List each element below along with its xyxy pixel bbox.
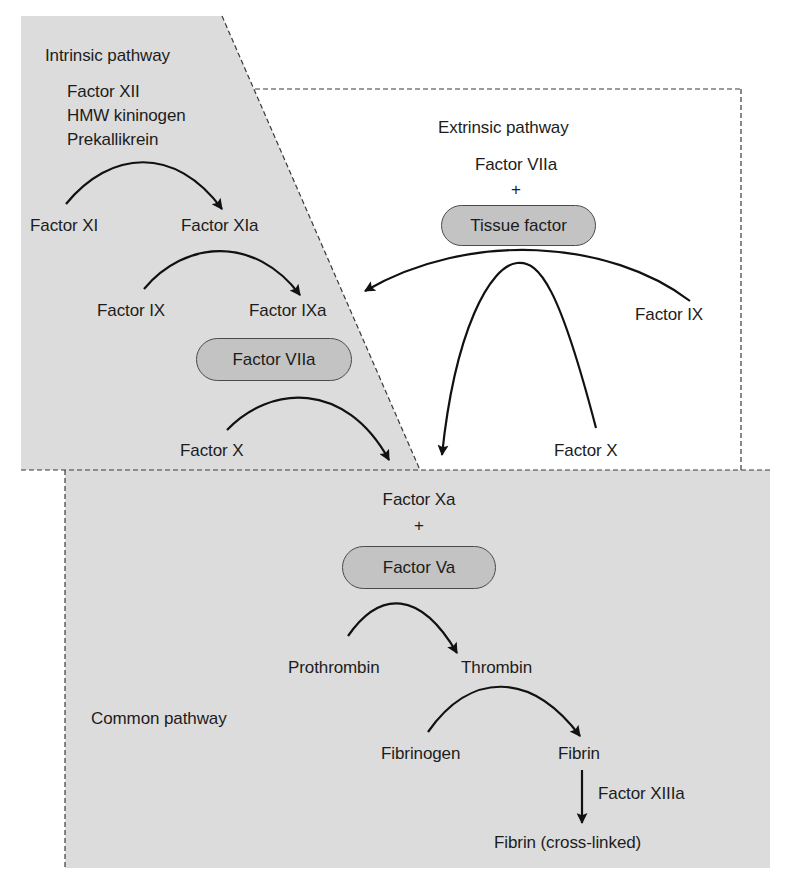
label-fibrin: Fibrin [558, 744, 600, 764]
arrow-extrinsic-ix-to-ixa [365, 250, 690, 301]
plus-sign-extrinsic: + [511, 180, 521, 200]
cofactor-pill-tissue-factor: Tissue factor [441, 205, 596, 246]
coagulation-cascade-diagram: Intrinsic pathway Factor XII HMW kininog… [0, 0, 790, 881]
label-fibrin-cross-linked: Fibrin (cross-linked) [494, 833, 641, 853]
label-factor-xi: Factor XI [30, 216, 98, 236]
intrinsic-initiator-prekallikrein: Prekallikrein [67, 130, 158, 150]
label-factor-ixa: Factor IXa [249, 301, 326, 321]
label-factor-xiiia: Factor XIIIa [598, 784, 685, 804]
label-extrinsic-factor-viia: Factor VIIa [475, 155, 557, 175]
intrinsic-pathway-heading: Intrinsic pathway [45, 46, 170, 66]
cofactor-pill-factor-viia-label: Factor VIIa [232, 350, 315, 370]
label-thrombin: Thrombin [461, 658, 532, 678]
label-fibrinogen: Fibrinogen [381, 744, 460, 764]
arrow-extrinsic-x-to-xa [442, 263, 596, 455]
cofactor-pill-factor-viia: Factor VIIa [196, 338, 352, 381]
common-pathway-heading: Common pathway [91, 709, 227, 729]
label-prothrombin: Prothrombin [288, 658, 380, 678]
label-factor-ix-intrinsic: Factor IX [97, 301, 165, 321]
intrinsic-initiator-factor-xii: Factor XII [67, 82, 140, 102]
plus-sign-common: + [414, 516, 424, 536]
label-factor-xa: Factor Xa [383, 490, 456, 510]
cofactor-pill-factor-va-label: Factor Va [383, 558, 455, 578]
label-factor-xia: Factor XIa [181, 216, 258, 236]
label-factor-x-intrinsic: Factor X [180, 441, 243, 461]
intrinsic-initiator-hmw-kininogen: HMW kininogen [67, 106, 186, 126]
label-factor-ix-extrinsic: Factor IX [635, 305, 703, 325]
cofactor-pill-tissue-factor-label: Tissue factor [470, 216, 567, 236]
cofactor-pill-factor-va: Factor Va [342, 546, 496, 589]
label-factor-x-extrinsic: Factor X [554, 441, 617, 461]
extrinsic-pathway-heading: Extrinsic pathway [438, 118, 569, 138]
